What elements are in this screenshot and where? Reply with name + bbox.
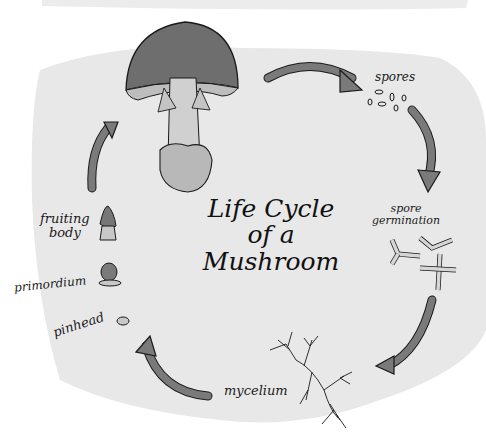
label-fruiting-body-line2: body [40,226,90,240]
mushroom-life-cycle-diagram: Life Cycle of a Mushroom spores spore ge… [0,0,486,444]
label-fruiting-body: fruiting body [40,212,90,239]
title-line-2: of a Mushroom [196,222,346,275]
pinhead-icon [117,317,129,325]
label-spore-germination-line2: germination [372,215,440,227]
label-mycelium: mycelium [224,384,288,397]
diagram-title: Life Cycle of a Mushroom [196,196,346,275]
label-fruiting-body-line1: fruiting [40,212,90,226]
title-line-1: Life Cycle [196,196,346,222]
label-spore-germination-line1: spore [372,203,440,215]
label-spores: spores [375,71,415,83]
top-band [42,0,468,10]
label-spore-germination: spore germination [372,203,440,226]
